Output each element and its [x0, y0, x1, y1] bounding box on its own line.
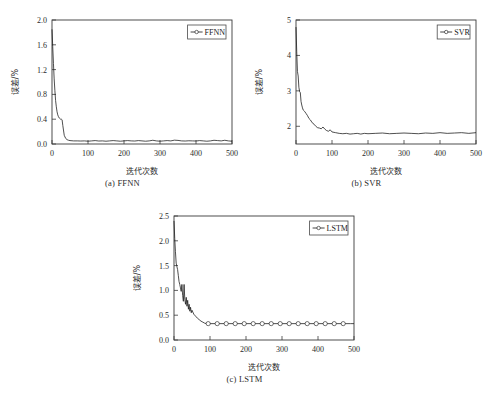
data-point-marker	[251, 322, 255, 326]
legend-label: SVR	[454, 28, 470, 37]
x-tick-label: 500	[348, 345, 360, 354]
x-tick-label: 0	[294, 149, 298, 158]
series-line-ffnn	[52, 29, 232, 141]
x-tick-label: 100	[204, 345, 216, 354]
x-tick-label: 300	[154, 149, 166, 158]
y-tick-label: 0.0	[37, 140, 47, 149]
series-line-svr	[296, 27, 476, 134]
y-tick-label: 3	[287, 87, 291, 96]
x-tick-label: 400	[312, 345, 324, 354]
x-tick-label: 300	[276, 345, 288, 354]
panel-caption-lstm: (c) LSTM	[122, 374, 367, 384]
x-tick-label: 400	[434, 149, 446, 158]
y-axis-title: 误差/%	[132, 264, 142, 291]
data-point-marker	[260, 322, 264, 326]
legend-marker-sample	[317, 226, 320, 229]
y-tick-label: 0.0	[159, 336, 169, 345]
x-tick-label: 500	[226, 149, 238, 158]
panel-lstm: 01002003004005000.00.51.01.52.02.5迭代次数误差…	[122, 196, 367, 396]
y-tick-label: 2	[287, 122, 291, 131]
y-tick-label: 0.8	[37, 90, 47, 99]
y-tick-label: 2.0	[37, 16, 47, 25]
legend-marker-sample	[445, 30, 448, 33]
data-point-marker	[305, 322, 309, 326]
x-tick-label: 200	[362, 149, 374, 158]
y-tick-label: 5	[287, 16, 291, 25]
data-point-marker	[206, 322, 210, 326]
legend-label: FFNN	[205, 28, 226, 37]
data-point-marker	[233, 322, 237, 326]
x-tick-label: 0	[172, 345, 176, 354]
y-tick-label: 1.0	[159, 286, 169, 295]
data-point-marker	[296, 322, 300, 326]
x-tick-label: 500	[470, 149, 482, 158]
data-point-marker	[215, 322, 219, 326]
panel-caption-svr: (b) SVR	[244, 178, 489, 188]
data-point-marker	[332, 322, 336, 326]
legend-marker-sample	[195, 30, 198, 33]
data-point-marker	[287, 322, 291, 326]
data-point-marker	[341, 322, 345, 326]
data-point-marker	[269, 322, 273, 326]
y-tick-label: 2.5	[159, 212, 169, 221]
legend-label: LSTM	[327, 224, 348, 233]
x-tick-label: 100	[326, 149, 338, 158]
x-tick-label: 400	[190, 149, 202, 158]
x-axis-title: 迭代次数	[248, 362, 280, 372]
y-axis-title: 误差/%	[254, 68, 264, 95]
x-tick-label: 300	[398, 149, 410, 158]
y-tick-label: 0.4	[37, 115, 47, 124]
data-point-marker	[314, 322, 318, 326]
x-tick-label: 100	[82, 149, 94, 158]
series-line-lstm	[174, 221, 354, 324]
y-tick-label: 0.5	[159, 311, 169, 320]
chart-svr: 01002003004005002345迭代次数误差/%SVR	[244, 0, 489, 178]
data-point-marker	[224, 322, 228, 326]
y-tick-label: 1.6	[37, 41, 47, 50]
data-point-marker	[242, 322, 246, 326]
y-tick-label: 1.5	[159, 262, 169, 271]
data-point-marker	[278, 322, 282, 326]
x-axis-title: 迭代次数	[126, 166, 158, 176]
y-tick-label: 4	[287, 51, 291, 60]
x-axis-title: 迭代次数	[370, 166, 402, 176]
y-tick-label: 2.0	[159, 237, 169, 246]
panel-svr: 01002003004005002345迭代次数误差/%SVR (b) SVR	[244, 0, 489, 196]
data-point-marker	[323, 322, 327, 326]
x-tick-label: 0	[50, 149, 54, 158]
chart-ffnn: 01002003004005000.00.40.81.21.62.0迭代次数误差…	[0, 0, 245, 178]
x-tick-label: 200	[118, 149, 130, 158]
y-axis-title: 误差/%	[10, 68, 20, 95]
panel-ffnn: 01002003004005000.00.40.81.21.62.0迭代次数误差…	[0, 0, 245, 196]
x-tick-label: 200	[240, 345, 252, 354]
y-tick-label: 1.2	[37, 66, 47, 75]
panel-caption-ffnn: (a) FFNN	[0, 178, 245, 188]
chart-lstm: 01002003004005000.00.51.01.52.02.5迭代次数误差…	[122, 196, 367, 374]
